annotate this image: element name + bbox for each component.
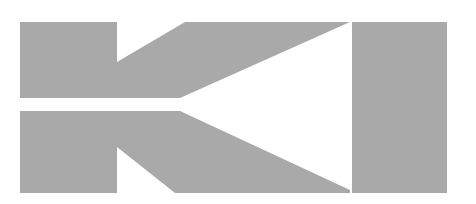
logo-bottom-arm: [20, 111, 350, 193]
logo-top-arm: [20, 22, 350, 98]
logo-right-block: [352, 22, 447, 193]
logo-mark: [0, 0, 476, 204]
